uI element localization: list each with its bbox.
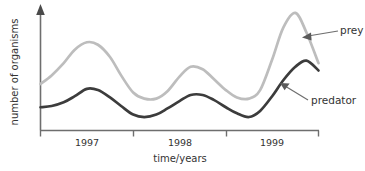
series-line-prey	[41, 13, 319, 100]
annotation-prey: prey	[302, 24, 363, 40]
x-tick-labels-group: 1997 1998 1999	[75, 137, 284, 148]
y-axis-label: number of organisms	[9, 19, 20, 126]
x-tick-label-1998: 1998	[168, 137, 192, 148]
annotation-predator: predator	[280, 83, 357, 106]
axes-group	[36, 4, 319, 137]
x-tick-label-1997: 1997	[75, 137, 99, 148]
predator-prey-line-chart: 1997 1998 1999 time/years number of orga…	[0, 0, 365, 171]
x-axis-label: time/years	[153, 153, 206, 164]
prey-leader-line	[308, 31, 338, 36]
series-line-predator	[41, 61, 319, 117]
data-series-group	[41, 13, 319, 117]
annotation-label-prey: prey	[340, 24, 363, 36]
x-tick-label-1999: 1999	[260, 137, 284, 148]
annotation-label-predator: predator	[311, 94, 357, 106]
chart-canvas: 1997 1998 1999 time/years number of orga…	[0, 0, 365, 171]
predator-leader-line	[285, 86, 308, 100]
predator-arrowhead-icon	[280, 83, 290, 90]
y-axis-arrowhead-icon	[36, 4, 45, 15]
